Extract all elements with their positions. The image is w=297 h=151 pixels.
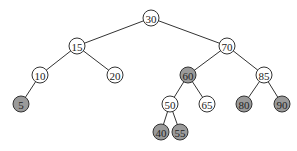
node-label: 90 bbox=[277, 99, 289, 111]
tree-node-40: 40 bbox=[153, 124, 169, 140]
tree-node-10: 10 bbox=[32, 67, 48, 83]
node-label: 20 bbox=[110, 70, 122, 82]
tree-node-55: 55 bbox=[172, 124, 188, 140]
node-label: 10 bbox=[35, 70, 47, 82]
node-label: 60 bbox=[183, 70, 195, 82]
node-label: 70 bbox=[222, 41, 234, 53]
node-label: 65 bbox=[202, 99, 214, 111]
tree-node-50: 50 bbox=[162, 96, 178, 112]
tree-diagram: 301570102060855506580904055 bbox=[0, 0, 297, 151]
node-label: 30 bbox=[146, 13, 158, 25]
tree-node-20: 20 bbox=[107, 67, 123, 83]
node-label: 80 bbox=[239, 99, 251, 111]
tree-node-30: 30 bbox=[143, 10, 159, 26]
tree-node-5: 5 bbox=[13, 96, 29, 112]
tree-node-85: 85 bbox=[256, 67, 272, 83]
tree-node-65: 65 bbox=[199, 96, 215, 112]
tree-node-80: 80 bbox=[236, 96, 252, 112]
edge-30-15 bbox=[77, 18, 151, 46]
tree-node-15: 15 bbox=[69, 38, 85, 54]
node-label: 85 bbox=[259, 70, 271, 82]
node-label: 15 bbox=[72, 41, 84, 53]
edges bbox=[21, 18, 282, 132]
node-label: 55 bbox=[175, 127, 187, 139]
tree-node-60: 60 bbox=[180, 67, 196, 83]
nodes: 301570102060855506580904055 bbox=[13, 10, 290, 140]
node-label: 40 bbox=[156, 127, 168, 139]
node-label: 5 bbox=[18, 99, 24, 111]
tree-node-90: 90 bbox=[274, 96, 290, 112]
node-label: 50 bbox=[165, 99, 177, 111]
edge-30-70 bbox=[151, 18, 227, 46]
tree-node-70: 70 bbox=[219, 38, 235, 54]
